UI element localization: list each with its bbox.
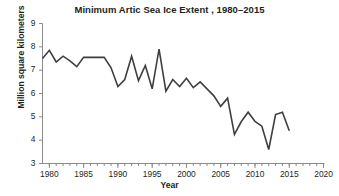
- x-tick-label: 2000: [171, 169, 201, 179]
- x-tick-label: 1990: [103, 169, 133, 179]
- y-tick-label: 3: [20, 158, 36, 168]
- y-tick-label: 8: [20, 41, 36, 51]
- x-tick-label: 2015: [274, 169, 304, 179]
- chart-figure: Minimum Artic Sea Ice Extent , 1980–2015…: [0, 0, 339, 196]
- y-tick-label: 6: [20, 88, 36, 98]
- x-tick-label: 2020: [309, 169, 339, 179]
- y-tick-label: 9: [20, 18, 36, 28]
- chart-plot-area: [0, 0, 339, 196]
- x-tick-label: 2010: [240, 169, 270, 179]
- y-tick-label: 5: [20, 111, 36, 121]
- sea-ice-extent-line: [43, 49, 290, 149]
- x-tick-label: 1980: [34, 169, 64, 179]
- x-tick-label: 2005: [206, 169, 236, 179]
- y-axis-ticks: [39, 24, 43, 164]
- y-tick-label: 7: [20, 64, 36, 74]
- y-tick-label: 4: [20, 134, 36, 144]
- x-tick-label: 1995: [137, 169, 167, 179]
- x-tick-label: 1985: [69, 169, 99, 179]
- axis-lines: [43, 24, 325, 164]
